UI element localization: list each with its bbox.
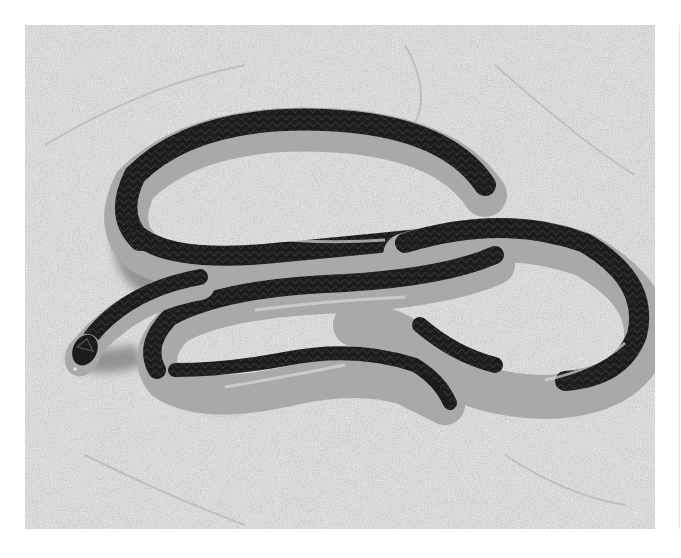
snake-photo-svg [25, 25, 655, 529]
snake-photo [25, 25, 655, 529]
edge-line [679, 25, 680, 529]
